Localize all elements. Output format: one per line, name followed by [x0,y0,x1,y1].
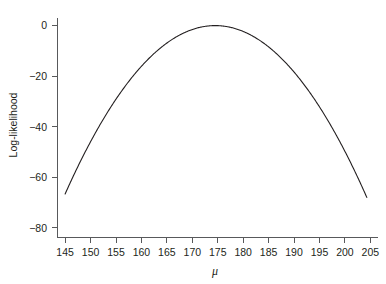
x-tick-label: 155 [107,246,125,258]
x-tick-label: 190 [285,246,303,258]
y-axis-title: Log-likelihood [7,92,19,157]
x-tick-label: 205 [362,246,380,258]
x-tick-label: 200 [336,246,354,258]
y-tick-label: 0 [41,19,47,31]
log-likelihood-chart: 0−20−40−60−80 Log-likelihood 14515015516… [0,0,386,284]
x-tick-label: 160 [133,246,151,258]
x-tick-label: 145 [56,246,74,258]
x-tick-label: 150 [82,246,100,258]
x-tick-label: 180 [234,246,252,258]
x-tick-label: 165 [158,246,176,258]
y-tick-label: −20 [29,70,47,82]
x-tick-label: 195 [311,246,329,258]
x-tick-label: 170 [184,246,202,258]
x-tick-label: 185 [260,246,278,258]
y-tick-label: −60 [29,171,47,183]
y-tick-label: −80 [29,222,47,234]
chart-figure: 0−20−40−60−80 Log-likelihood 14515015516… [0,0,386,284]
x-tick-label: 175 [209,246,227,258]
x-axis-title: μ [211,264,218,278]
y-tick-label: −40 [29,121,47,133]
